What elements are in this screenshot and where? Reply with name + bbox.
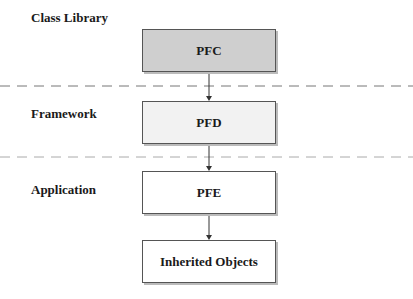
layer-diagram: Class Library Framework Application PFC … — [0, 0, 413, 299]
box-inherited-objects: Inherited Objects — [142, 240, 276, 283]
box-pfe: PFE — [142, 171, 276, 214]
layer-label-class-library: Class Library — [31, 10, 108, 26]
box-pfd: PFD — [142, 101, 276, 144]
layer-label-application: Application — [31, 182, 96, 198]
box-pfc: PFC — [142, 29, 276, 72]
layer-label-framework: Framework — [31, 106, 97, 122]
